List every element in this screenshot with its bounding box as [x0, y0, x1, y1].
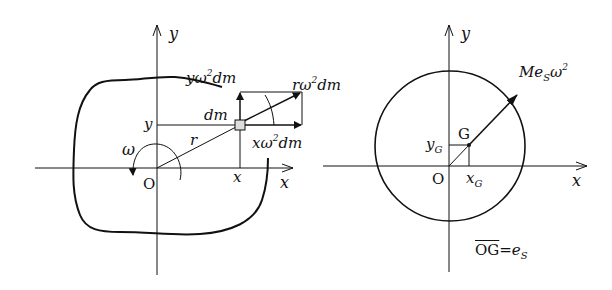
left-origin-label: O: [143, 177, 155, 192]
dm-label: dm: [204, 108, 228, 123]
yg-label: yG: [426, 137, 442, 152]
eccentricity-equation: OG=eS: [475, 243, 528, 258]
mass-element-dm: [235, 120, 245, 130]
force-r-arrow: [244, 93, 300, 121]
centrifugal-force-label: MeSω2: [519, 65, 568, 80]
center-of-mass-g: [467, 143, 471, 147]
rotor-circle: [375, 71, 525, 221]
x-coord-label: x: [233, 170, 241, 185]
xg-label: xG: [466, 171, 482, 186]
force-r-label: rω2dm: [292, 78, 341, 93]
y-coord-label: y: [144, 117, 152, 132]
r-label: r: [190, 133, 197, 148]
force-x-label: xω2dm: [252, 136, 302, 151]
right-figure: [323, 25, 587, 272]
right-origin-label: O: [432, 172, 444, 187]
left-y-axis-label: y: [169, 26, 178, 42]
rigid-body-outline: [73, 77, 268, 235]
right-y-axis-label: y: [461, 26, 470, 42]
g-label: G: [458, 127, 470, 142]
centrifugal-force-arrow: [469, 95, 517, 145]
left-x-axis-label: x: [280, 175, 289, 191]
right-x-axis-label: x: [572, 173, 581, 189]
omega-label: ω: [122, 142, 135, 158]
force-y-label: yω2dm: [186, 71, 236, 86]
diagram-canvas: y x O ω r dm x y yω2dm rω2dm xω2dm y x O…: [0, 0, 612, 290]
